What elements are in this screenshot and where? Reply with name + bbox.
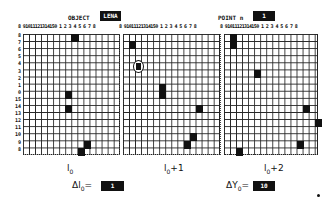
delta-l-text: Δl <box>72 180 81 190</box>
delta-l-value-field[interactable]: 1 <box>101 181 124 191</box>
frame-l0-plus-1 <box>123 34 220 155</box>
row-label: 3 <box>12 68 21 74</box>
row-label: 14 <box>12 103 21 109</box>
object-value-field[interactable]: LENA <box>100 11 121 21</box>
row-label: 12 <box>12 117 21 123</box>
row-label: 4 <box>12 60 21 66</box>
delta-y-value-field[interactable]: 10 <box>253 181 275 191</box>
filled-cell[interactable] <box>184 141 191 149</box>
cursor-dot <box>317 194 320 197</box>
row-label: 8 <box>12 32 21 38</box>
column-labels-panel-2: 8 91011121314150 1 2 3 4 5 6 7 8 <box>119 23 196 31</box>
filled-cell[interactable] <box>315 119 322 127</box>
delta-y-text: ΔY <box>226 180 238 190</box>
filled-cell[interactable] <box>159 91 166 99</box>
grid-lines <box>123 34 220 155</box>
delta-l-eq: = <box>85 180 93 190</box>
frame-l0 <box>23 34 120 155</box>
caption-suffix: +2 <box>270 163 283 173</box>
filled-cell[interactable] <box>230 41 237 49</box>
delta-y-label: ΔY0= <box>226 180 249 192</box>
row-label: 9 <box>12 139 21 145</box>
row-label: 2 <box>12 75 21 81</box>
column-labels-panel-3: 8 91011121314150 1 2 3 4 5 6 7 8 <box>220 23 297 31</box>
row-label: 13 <box>12 110 21 116</box>
caption-sub: 0 <box>70 168 74 175</box>
object-label: OBJECT <box>68 14 90 21</box>
filled-cell[interactable] <box>254 70 261 78</box>
point-value-field[interactable]: 1 <box>253 11 275 21</box>
filled-cell[interactable] <box>303 105 310 113</box>
caption-l0-plus-2: l0+2 <box>264 163 284 175</box>
filled-cell[interactable] <box>65 105 72 113</box>
row-label: 1 <box>12 82 21 88</box>
filled-cell[interactable] <box>129 41 136 49</box>
caption-suffix: +1 <box>170 163 183 173</box>
filled-cell[interactable] <box>196 105 203 113</box>
row-label: 10 <box>12 131 21 137</box>
filled-cell[interactable] <box>236 148 243 156</box>
row-label: 0 <box>12 89 21 95</box>
delta-y-eq: = <box>241 180 249 190</box>
frame-l0-plus-2 <box>224 34 318 155</box>
delta-l-label: Δl0= <box>72 180 92 192</box>
filled-cell[interactable] <box>190 133 197 141</box>
grid-lines <box>224 34 318 155</box>
column-labels-panel-1: 8 91011121314150 1 2 3 4 5 6 7 8 <box>18 23 95 31</box>
filled-cell[interactable] <box>297 141 304 149</box>
row-label: 5 <box>12 53 21 59</box>
caption-l0-plus-1: l0+1 <box>164 163 184 175</box>
row-label: 11 <box>12 124 21 130</box>
row-label: 7 <box>12 39 21 45</box>
row-label: 8 <box>12 146 21 152</box>
filled-cell[interactable] <box>84 141 91 149</box>
filled-cell[interactable] <box>71 34 78 42</box>
point-label: POINT n <box>218 14 243 21</box>
row-label: 6 <box>12 46 21 52</box>
row-label: 15 <box>12 96 21 102</box>
filled-cell[interactable] <box>78 148 85 156</box>
caption-l0: l0 <box>67 163 73 175</box>
filled-cell[interactable] <box>65 91 72 99</box>
filled-cell <box>136 63 141 70</box>
